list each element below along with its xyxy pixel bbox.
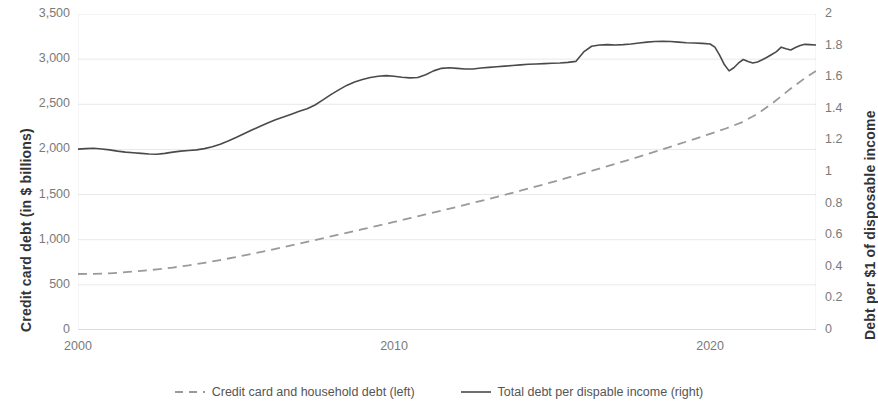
chart-figure: Credit card debt (in $ billions) Debt pe… xyxy=(0,0,878,410)
legend-label: Credit card and household debt (left) xyxy=(212,386,415,399)
axis-lines xyxy=(78,14,816,330)
plot-svg xyxy=(78,14,816,330)
y-axis-left-tick-label: 3,000 xyxy=(0,51,70,65)
legend-label: Total debt per dispable income (right) xyxy=(498,386,704,399)
y-axis-left-title-text: Credit card debt (in $ billions) xyxy=(18,128,34,332)
x-axis-tick-label: 2020 xyxy=(670,339,750,353)
y-axis-right-tick-label: 0.8 xyxy=(825,196,853,210)
y-axis-left-tick-label: 2,000 xyxy=(0,141,70,155)
legend-item[interactable]: Total debt per dispable income (right) xyxy=(461,386,704,399)
y-axis-right-tick-label: 1.8 xyxy=(825,38,853,52)
y-axis-left-tick-label: 2,500 xyxy=(0,96,70,110)
y-axis-left-tick-label: 3,500 xyxy=(0,6,70,20)
series-line-1 xyxy=(78,71,816,274)
plot-area xyxy=(78,14,816,330)
y-axis-right-tick-label: 1 xyxy=(825,164,853,178)
y-axis-right-tick-label: 2 xyxy=(825,6,853,20)
data-series xyxy=(78,41,816,274)
y-axis-right-tick-label: 1.6 xyxy=(825,69,853,83)
y-axis-right-tick-label: 1.4 xyxy=(825,101,853,115)
x-axis-tick-label: 2010 xyxy=(354,339,434,353)
y-axis-right-tick-label: 0.4 xyxy=(825,259,853,273)
y-axis-left-tick-label: 1,000 xyxy=(0,232,70,246)
y-axis-left-tick-label: 500 xyxy=(0,277,70,291)
y-axis-right-tick-label: 0.6 xyxy=(825,227,853,241)
x-axis-tick-label: 2000 xyxy=(38,339,118,353)
y-axis-left-tick-label: 0 xyxy=(0,322,70,336)
y-axis-right-tick-label: 1.2 xyxy=(825,132,853,146)
y-axis-right-tick-label: 0 xyxy=(825,322,853,336)
series-line-2 xyxy=(78,41,816,154)
y-axis-right-title-text: Debt per $1 of disposable income xyxy=(862,110,878,340)
y-axis-right-tick-label: 0.2 xyxy=(825,290,853,304)
grid-lines xyxy=(78,14,816,330)
chart-legend: Credit card and household debt (left)Tot… xyxy=(0,378,878,406)
y-axis-left-tick-label: 1,500 xyxy=(0,187,70,201)
legend-item[interactable]: Credit card and household debt (left) xyxy=(175,386,415,399)
legend-swatch-dashed xyxy=(175,387,205,397)
legend-swatch-solid xyxy=(461,387,491,397)
